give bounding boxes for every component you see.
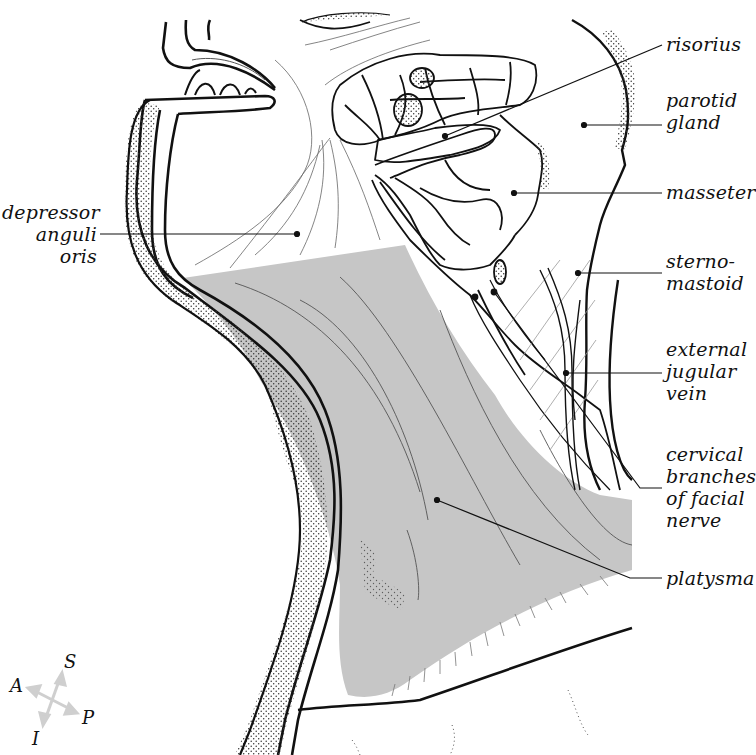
- anatomy-illustration: [0, 0, 756, 755]
- external-jugular-vein-vessel: [540, 268, 580, 490]
- masseter-stipple: [535, 140, 550, 190]
- orientation-superior: S: [64, 651, 76, 672]
- lower-stipple: [352, 690, 588, 755]
- orientation-posterior: P: [82, 707, 94, 728]
- label-depressor-anguli-oris: depressor anguli oris: [2, 201, 97, 267]
- label-sternomastoid: sterno- mastoid: [666, 250, 744, 294]
- skin-stipple: [125, 100, 328, 755]
- label-platysma: platysma: [666, 567, 755, 589]
- orientation-anterior: A: [10, 675, 23, 696]
- label-cervical-branches-of-facial-nerve: cervical branches of facial nerve: [666, 443, 756, 531]
- label-external-jugular-vein: external jugular vein: [666, 338, 747, 404]
- label-parotid-gland: parotid gland: [666, 89, 737, 133]
- orientation-arrows: [28, 673, 77, 725]
- orientation-inferior: I: [32, 728, 39, 749]
- label-risorius: risorius: [666, 33, 741, 55]
- label-masseter: masseter: [666, 181, 756, 203]
